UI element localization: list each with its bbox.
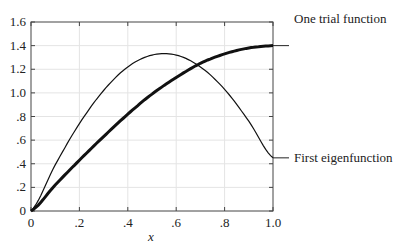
chart: 0.2.4.6.81.00.2.4.6.81.01.21.41.6 One tr… — [0, 0, 404, 251]
svg-text:0: 0 — [20, 203, 27, 218]
svg-text:.8: .8 — [16, 109, 26, 124]
svg-text:1.0: 1.0 — [10, 85, 26, 100]
plot-area: 0.2.4.6.81.00.2.4.6.81.01.21.41.6 — [0, 0, 404, 251]
svg-text:.4: .4 — [123, 215, 133, 230]
label-eigenfunction: First eigenfunction — [294, 151, 393, 164]
x-axis-label: x — [148, 230, 154, 243]
svg-text:1.2: 1.2 — [10, 61, 26, 76]
svg-text:.8: .8 — [220, 215, 230, 230]
svg-text:1.0: 1.0 — [265, 215, 281, 230]
svg-text:1.6: 1.6 — [10, 14, 27, 29]
svg-text:.2: .2 — [16, 179, 26, 194]
svg-text:0: 0 — [28, 215, 35, 230]
svg-text:1.4: 1.4 — [10, 38, 27, 53]
svg-text:.4: .4 — [16, 156, 26, 171]
svg-text:.6: .6 — [16, 132, 26, 147]
label-trial-function: One trial function — [294, 12, 386, 25]
svg-text:.6: .6 — [171, 215, 181, 230]
svg-text:.2: .2 — [75, 215, 85, 230]
